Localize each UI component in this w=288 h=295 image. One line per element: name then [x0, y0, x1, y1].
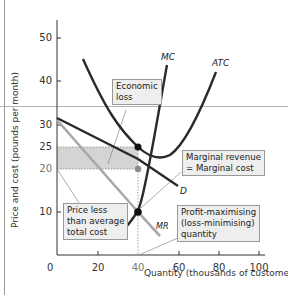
callout-text: quantity [181, 229, 256, 240]
y-tick-label-50: 50 [32, 32, 52, 43]
x-axis-label: Quantity (thousands of customers) [144, 268, 288, 278]
origin-label: 0 [47, 262, 53, 273]
callout-text: (loss-minimising) [181, 218, 256, 229]
y-tick-label-10: 10 [32, 206, 52, 217]
callout-text: Price less [67, 205, 124, 216]
callout-price-less-than-atc: Price less than average total cost [63, 203, 128, 240]
y-tick-label-25: 25 [32, 141, 52, 152]
callout-text: than average [67, 216, 124, 227]
price-point-marker [135, 166, 141, 172]
callout-mr-equals-mc: Marginal revenue = Marginal cost [182, 150, 265, 176]
callout-text: = Marginal cost [186, 163, 261, 174]
callout-text: Profit-maximising [181, 207, 256, 218]
y-axis-label: Price and cost (pounds per month) [10, 50, 22, 250]
leader-profit-max [139, 238, 178, 255]
callout-profit-maximising-quantity: Profit-maximising (loss-minimising) quan… [177, 205, 260, 242]
y-tick-label-30: 30 [32, 119, 52, 130]
mc-curve-label: MC [161, 52, 175, 62]
x-ticks [98, 251, 259, 255]
callout-text: total cost [67, 227, 124, 238]
leader-price-less [57, 169, 79, 203]
callout-economic-loss: Economic loss [112, 79, 162, 105]
y-tick-label-40: 40 [32, 75, 52, 86]
atc-curve [83, 59, 216, 158]
mr-curve-label: MR [156, 222, 168, 231]
x-tick-label-20: 20 [83, 262, 113, 273]
callout-text: Marginal revenue [186, 152, 261, 163]
d-curve-label: D [180, 186, 187, 196]
callout-text: Economic [116, 81, 158, 92]
y-tick-label-20: 20 [32, 163, 52, 174]
atc-point-marker [135, 144, 142, 151]
callout-text: loss [116, 92, 158, 103]
atc-curve-label: ATC [212, 58, 229, 68]
mr-mc-point-marker [134, 208, 142, 216]
